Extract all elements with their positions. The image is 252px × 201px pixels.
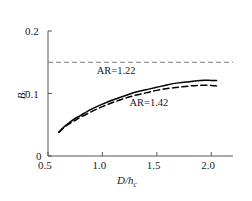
chart-figure: 0.5 1.0 1.5 2.0 0 0.1 0.2 Bi D/hc AR=1.2…: [0, 0, 252, 201]
series-annotation-ar-1-42: AR=1.42: [129, 98, 168, 109]
y-axis-title-main: B: [15, 93, 27, 100]
x-tick-label-1: 1.0: [92, 160, 106, 171]
x-axis-title: D/hc: [117, 175, 137, 189]
series-annotation-ar-1-22: AR=1.22: [97, 66, 136, 77]
x-axis-title-subscript: c: [134, 180, 137, 189]
y-axis-title-subscript: i: [21, 90, 30, 92]
x-axis-title-main: D/h: [117, 174, 134, 186]
y-axis-title-wrapper: Bi: [9, 80, 37, 108]
y-tick-label-0: 0: [36, 151, 42, 162]
x-axis-ticks: [48, 152, 211, 156]
y-tick-label-2: 0.2: [25, 26, 39, 37]
series-line-ar-1-42: [59, 85, 217, 132]
y-axis-ticks: [48, 31, 52, 156]
x-tick-label-3: 2.0: [201, 160, 215, 171]
y-axis-title: Bi: [16, 75, 30, 115]
x-tick-label-2: 1.5: [147, 160, 161, 171]
